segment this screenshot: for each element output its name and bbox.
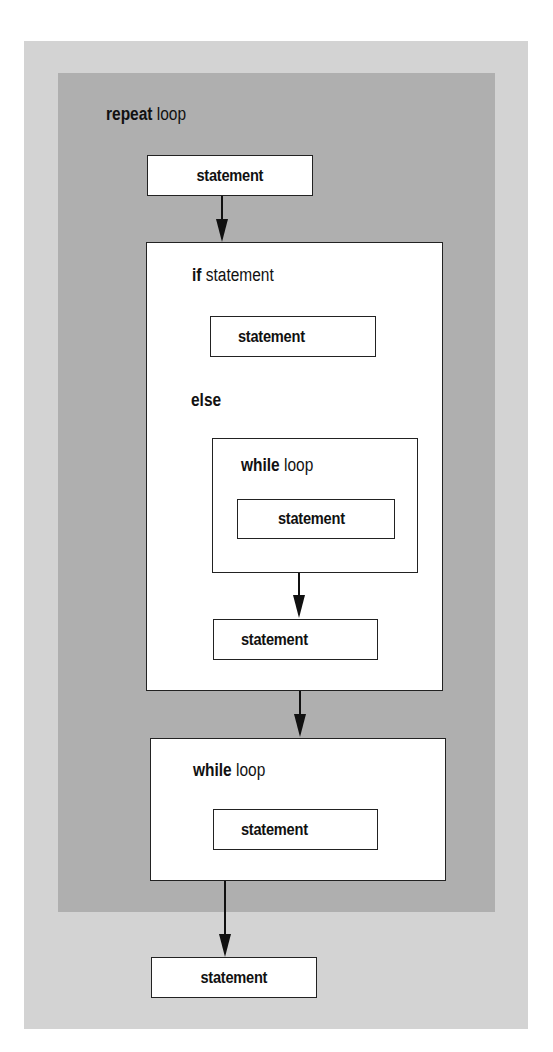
loop-text: loop (236, 760, 265, 780)
inner-while-label: while loop (241, 455, 313, 476)
statement-label: statement (241, 820, 308, 840)
else-keyword: else (191, 390, 221, 410)
outer-while-label: while loop (193, 760, 265, 781)
loop-text: loop (284, 455, 313, 475)
statement-label: statement (201, 968, 268, 988)
statement-box-if-body: statement (210, 316, 376, 357)
statement-box-top: statement (147, 155, 313, 196)
statement-label: statement (197, 166, 264, 186)
connector-line (298, 573, 300, 597)
repeat-loop-label: repeat loop (106, 104, 186, 125)
if-statement-label: if statement (192, 265, 274, 286)
statement-box-bottom: statement (151, 957, 317, 998)
statement-box-outer-while-body: statement (213, 809, 378, 850)
statement-label: statement (241, 630, 308, 650)
statement-box-inner-while-body: statement (237, 499, 395, 539)
if-keyword: if (192, 265, 201, 285)
repeat-keyword: repeat (106, 104, 152, 124)
while-keyword: while (193, 760, 232, 780)
arrow-down-icon (216, 219, 228, 242)
statement-label: statement (238, 327, 305, 347)
statement-label: statement (278, 509, 345, 529)
loop-text: loop (157, 104, 186, 124)
statement-box-after-while: statement (213, 619, 378, 660)
if-statement-text: statement (206, 265, 274, 285)
arrow-down-icon (294, 714, 306, 737)
arrow-down-icon (219, 934, 231, 957)
else-label: else (191, 390, 221, 411)
arrow-down-icon (293, 595, 305, 618)
connector-line (224, 881, 226, 937)
while-keyword: while (241, 455, 280, 475)
